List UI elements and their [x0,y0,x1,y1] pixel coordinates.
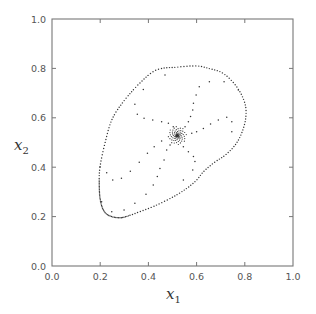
fixed-point-cluster [168,126,187,145]
y-tick-label: 0.0 [31,261,46,272]
y-tick-label: 1.0 [31,14,46,25]
plot-canvas: 0.00.20.40.60.81.0 0.00.20.40.60.81.0 x1… [0,0,316,314]
x-tick-label: 0.0 [44,271,59,282]
x-tick-label: 0.6 [189,271,204,282]
y-tick-label: 0.2 [31,211,46,222]
y-axis-label: x2 [14,136,29,156]
y-axis-tick-labels: 0.00.20.40.60.81.0 [31,14,46,272]
x-tick-label: 0.4 [141,271,156,282]
x-axis-tick-labels: 0.00.20.40.60.81.0 [44,271,300,282]
y-tick-label: 0.4 [31,162,46,173]
closed-orbit [98,65,246,218]
y-tick-label: 0.8 [31,63,46,74]
x-tick-label: 1.0 [285,271,300,282]
x-tick-label: 0.2 [93,271,108,282]
y-tick-label: 0.6 [31,112,46,123]
interior-points [101,74,239,212]
x-tick-label: 0.8 [237,271,252,282]
x-axis-label: x1 [166,285,181,305]
phase-portrait-figure: 0.00.20.40.60.81.0 0.00.20.40.60.81.0 x1… [0,0,316,314]
axis-ticks [52,19,293,266]
plot-frame [52,19,293,266]
data-points [98,65,246,218]
